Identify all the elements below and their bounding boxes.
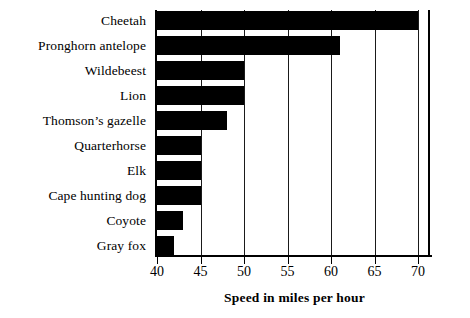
x-tick-mark-40 <box>157 257 158 264</box>
category-label-cheetah: Cheetah <box>0 14 146 28</box>
x-tick-label-50: 50 <box>224 264 264 280</box>
gridline-70 <box>418 10 419 255</box>
bar-gray-fox <box>157 236 174 255</box>
x-tick-label-60: 60 <box>311 264 351 280</box>
x-tick-label-40: 40 <box>137 264 177 280</box>
category-label-gray-fox: Gray fox <box>0 239 146 253</box>
category-label-quarterhorse: Quarterhorse <box>0 139 146 153</box>
category-label-cape-hunting-dog: Cape hunting dog <box>0 189 146 203</box>
category-label-column: Cheetah Pronghorn antelope Wildebeest Li… <box>0 11 152 255</box>
category-label-lion: Lion <box>0 89 146 103</box>
bar-pronghorn-antelope <box>157 36 340 55</box>
bar-quarterhorse <box>157 136 201 155</box>
bar-cheetah <box>157 11 418 30</box>
x-tick-label-65: 65 <box>355 264 395 280</box>
x-tick-mark-55 <box>288 257 289 264</box>
bar-coyote <box>157 211 183 230</box>
bar-lion <box>157 86 244 105</box>
x-tick-label-45: 45 <box>181 264 221 280</box>
bar-cape-hunting-dog <box>157 186 201 205</box>
x-axis-line <box>155 255 432 257</box>
x-tick-label-55: 55 <box>268 264 308 280</box>
x-tick-mark-65 <box>375 257 376 264</box>
x-tick-mark-50 <box>244 257 245 264</box>
x-tick-mark-70 <box>418 257 419 264</box>
bar-chart: Cheetah Pronghorn antelope Wildebeest Li… <box>0 0 470 318</box>
x-axis-title: Speed in miles per hour <box>157 290 432 306</box>
category-label-coyote: Coyote <box>0 214 146 228</box>
gridline-65 <box>375 10 376 255</box>
x-tick-label-70: 70 <box>398 264 438 280</box>
x-tick-mark-45 <box>201 257 202 264</box>
category-label-pronghorn-antelope: Pronghorn antelope <box>0 39 146 53</box>
category-label-wildebeest: Wildebeest <box>0 64 146 78</box>
bar-elk <box>157 161 201 180</box>
x-tick-mark-60 <box>331 257 332 264</box>
category-label-thomsons-gazelle: Thomson’s gazelle <box>0 114 146 128</box>
bar-thomson-s-gazelle <box>157 111 227 130</box>
category-label-elk: Elk <box>0 164 146 178</box>
bar-wildebeest <box>157 61 244 80</box>
